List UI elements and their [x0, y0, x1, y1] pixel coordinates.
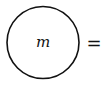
equals-sign: = — [86, 33, 101, 54]
diagram-canvas: m = — [0, 0, 103, 85]
node-label: m — [36, 33, 50, 51]
